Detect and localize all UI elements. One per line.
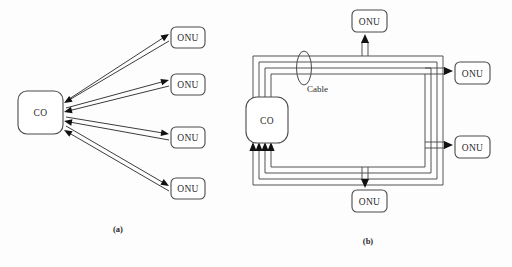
co-to-onu-1-in-line <box>70 41 169 99</box>
onu-bottom-label: ONU <box>359 197 380 207</box>
cable-marker: Cable <box>297 51 329 94</box>
co-to-onu-4-out-line <box>66 126 163 182</box>
drop-right-2-arrow <box>444 141 453 149</box>
onu-bottom[interactable]: ONU <box>352 190 387 212</box>
drop-right-1-arrow <box>444 67 453 75</box>
co-to-onu-4-in-line <box>70 134 169 191</box>
onu-right-2-label: ONU <box>462 143 483 153</box>
ring-outer-3 <box>265 68 431 173</box>
onu-node-a-4-label: ONU <box>177 184 198 194</box>
panel-b-caption: (b) <box>363 236 374 246</box>
cable-label: Cable <box>307 84 328 94</box>
onu-right-1-label: ONU <box>462 69 483 79</box>
panel-b-nodes[interactable]: ONUONUONUONU <box>352 10 490 212</box>
onu-node-a-2[interactable]: ONU <box>171 74 205 95</box>
co-to-onu-4-out-arrow <box>160 179 169 186</box>
onu-node-a-1-label: ONU <box>177 33 198 43</box>
drop-top-arrow <box>361 34 369 43</box>
panel-a-caption: (a) <box>113 224 123 234</box>
panel-a-hub[interactable]: CO <box>18 91 63 134</box>
co-to-onu-2-out-arrow <box>160 79 169 85</box>
ring-outer-4 <box>271 74 425 167</box>
co-to-onu-4-in-arrow <box>64 130 73 137</box>
onu-right-1[interactable]: ONU <box>455 62 490 84</box>
onu-node-a-1[interactable]: ONU <box>171 27 205 48</box>
onu-node-a-3-label: ONU <box>177 133 198 143</box>
onu-right-2[interactable]: ONU <box>455 136 490 158</box>
panel-a-nodes[interactable]: ONUONUONUONU <box>171 27 205 199</box>
onu-node-a-2-label: ONU <box>177 80 198 90</box>
panel-b-hub[interactable]: CO <box>246 97 288 143</box>
figure-root: CO ONUONUONUONU (a) CO ONUONUONUONU Cabl… <box>0 0 512 267</box>
co-to-onu-3-in-arrow <box>64 119 72 125</box>
panel-a-links <box>64 34 169 191</box>
pon-architecture-diagram: CO ONUONUONUONU (a) CO ONUONUONUONU Cabl… <box>0 0 512 267</box>
onu-top[interactable]: ONU <box>352 10 387 32</box>
co-to-onu-3-out-arrow <box>161 129 169 136</box>
co-to-onu-1-out-arrow <box>160 34 169 41</box>
panel-b-drops <box>361 34 453 188</box>
onu-top-label: ONU <box>359 17 380 27</box>
drop-bottom-arrow <box>361 179 369 188</box>
co-node-b[interactable]: CO <box>246 97 288 143</box>
co-node-a[interactable]: CO <box>18 91 63 134</box>
onu-node-a-3[interactable]: ONU <box>171 127 205 148</box>
onu-node-a-4[interactable]: ONU <box>171 178 205 199</box>
co-node-b-label: CO <box>260 116 274 126</box>
co-to-onu-2-in-line <box>71 86 169 110</box>
panel-b: CO ONUONUONUONU Cable (b) <box>246 10 490 246</box>
co-node-a-label: CO <box>34 108 48 118</box>
co-to-onu-2-out-line <box>66 82 162 108</box>
panel-a: CO ONUONUONUONU (a) <box>18 27 205 234</box>
